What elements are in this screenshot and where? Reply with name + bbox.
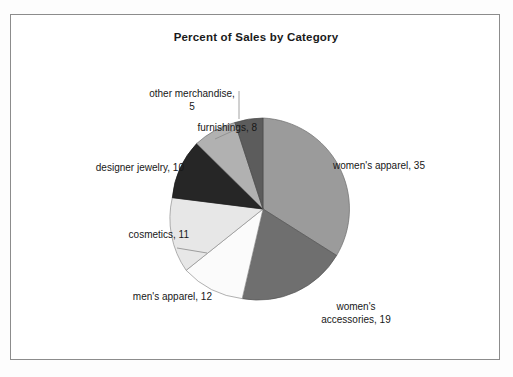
- pie-label-furnishings: furnishings, 8: [107, 121, 257, 134]
- chart-frame: Percent of Sales by Category: [10, 14, 500, 360]
- pie-label-womens-apparel: women's apparel, 35: [333, 159, 483, 172]
- pie-chart-svg: [11, 15, 501, 361]
- pie-label-womens-accessories: women's accessories, 19: [297, 300, 415, 326]
- pie-label-designer-jewelry: designer jewelry, 10: [69, 161, 184, 174]
- pie-chart: other merchandise, 5 furnishings, 8 desi…: [11, 15, 501, 361]
- scanned-page: Percent of Sales by Category: [0, 0, 513, 377]
- pie-label-mens-apparel: men's apparel, 12: [95, 290, 212, 303]
- pie-slices: [170, 118, 350, 300]
- pie-label-cosmetics: cosmetics, 11: [89, 228, 189, 241]
- pie-label-other-merchandise: other merchandise, 5: [127, 87, 257, 113]
